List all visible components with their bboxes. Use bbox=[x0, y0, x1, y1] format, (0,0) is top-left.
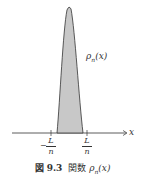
bump-curve bbox=[57, 7, 83, 133]
caption-number: 図 9.3 bbox=[35, 163, 63, 173]
curve-label: ρn(x) bbox=[86, 52, 107, 63]
tick-right-label: L n bbox=[82, 137, 92, 156]
axis-label-x: x bbox=[129, 128, 134, 137]
caption-math: ρn(x) bbox=[89, 163, 110, 173]
tick-left-label: L n bbox=[46, 137, 56, 156]
figure-caption: 図 9.3関数 ρn(x) bbox=[0, 161, 145, 175]
plot-canvas bbox=[0, 0, 145, 181]
caption-text: 関数 bbox=[68, 163, 86, 173]
